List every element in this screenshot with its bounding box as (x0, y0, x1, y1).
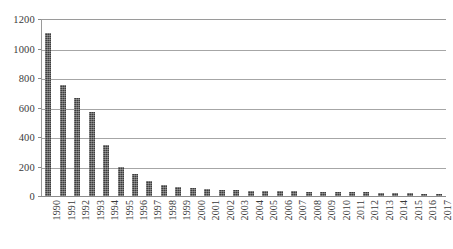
bars-layer (41, 19, 446, 196)
x-axis-label: 2016 (428, 200, 438, 220)
bar (204, 189, 210, 196)
bar (277, 191, 283, 196)
bar (45, 33, 51, 196)
bar (60, 85, 66, 196)
x-axis-label: 2007 (298, 200, 308, 220)
bar (320, 192, 326, 196)
x-axis-label: 1991 (67, 200, 77, 220)
x-axis-label: 2006 (284, 200, 294, 220)
bar (103, 145, 109, 196)
x-axis-label: 2005 (269, 200, 279, 220)
x-axis-label: 1992 (81, 200, 91, 220)
bar (291, 191, 297, 196)
bar (378, 193, 384, 196)
bar (146, 181, 152, 196)
bar (219, 190, 225, 196)
bar (74, 98, 80, 196)
x-axis-label: 2012 (370, 200, 380, 220)
x-axis-label: 2001 (211, 200, 221, 220)
x-axis-label: 1997 (153, 200, 163, 220)
x-axis-label: 2000 (197, 200, 207, 220)
x-axis-label: 1996 (139, 200, 149, 220)
bar (175, 187, 181, 196)
x-axis-label: 1994 (110, 200, 120, 220)
x-axis-label: 2010 (342, 200, 352, 220)
y-axis-label: 1000 (13, 43, 35, 54)
x-axis-label: 2009 (327, 200, 337, 220)
y-axis-label: 800 (19, 73, 35, 84)
x-axis-label: 2014 (399, 200, 409, 220)
y-axis-label: 600 (19, 102, 35, 113)
y-axis-label: 400 (19, 132, 35, 143)
bar (190, 188, 196, 196)
x-axis-label: 2017 (443, 200, 453, 220)
y-axis-label: 0 (30, 191, 35, 202)
bar (349, 192, 355, 196)
x-axis: 1990199119921993199419951996199719981999… (41, 198, 446, 249)
bar (161, 185, 167, 196)
bar (407, 193, 413, 196)
x-axis-label: 2002 (226, 200, 236, 220)
bar (392, 193, 398, 196)
x-axis-line (41, 196, 446, 197)
bar (262, 191, 268, 196)
bar (306, 192, 312, 196)
y-axis-label: 200 (19, 161, 35, 172)
bar (233, 190, 239, 196)
x-axis-label: 2015 (414, 200, 424, 220)
y-axis: 020040060080010001200 (0, 0, 38, 249)
x-axis-label: 2003 (240, 200, 250, 220)
x-axis-label: 1995 (125, 200, 135, 220)
bar (363, 192, 369, 196)
bar (132, 174, 138, 196)
x-axis-label: 2011 (356, 200, 366, 220)
x-axis-label: 1993 (96, 200, 106, 220)
bar (118, 167, 124, 197)
x-axis-label: 1999 (182, 200, 192, 220)
y-axis-tick (38, 196, 41, 197)
x-axis-label: 2008 (313, 200, 323, 220)
x-axis-label: 1990 (52, 200, 62, 220)
bar (436, 194, 442, 197)
x-axis-label: 1998 (168, 200, 178, 220)
bar (335, 192, 341, 196)
bar (248, 191, 254, 196)
x-axis-label: 2013 (385, 200, 395, 220)
bar (89, 112, 95, 196)
y-axis-label: 1200 (13, 14, 35, 25)
bar (421, 194, 427, 197)
x-axis-label: 2004 (255, 200, 265, 220)
